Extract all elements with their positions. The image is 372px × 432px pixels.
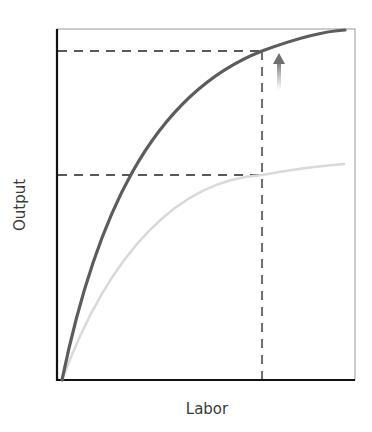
arrow-up-icon xyxy=(273,53,285,90)
curve-shifted-production xyxy=(62,30,345,380)
production-function-chart xyxy=(0,0,372,432)
x-axis-label: Labor xyxy=(0,400,372,418)
y-axis-label: Output xyxy=(11,179,29,231)
curve-initial-production xyxy=(62,164,344,380)
